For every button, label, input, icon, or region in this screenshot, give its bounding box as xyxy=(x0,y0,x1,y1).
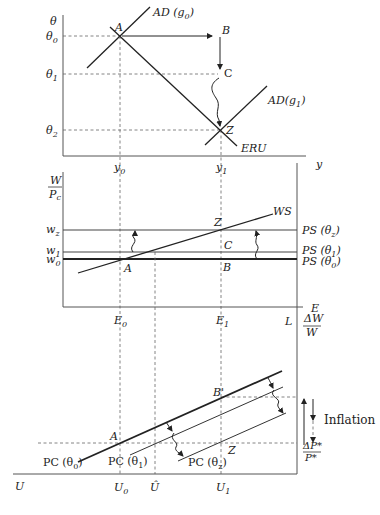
eru-curve xyxy=(110,27,237,146)
wavy-arrow-c-to-z xyxy=(212,78,220,126)
shift-arrow-right-1 xyxy=(268,378,273,388)
labour-force-label: L xyxy=(284,315,292,328)
panel-top-ad-eru: θ y θ0 θ1 θ2 y0 y1 AD (g0) ERU AD(g1) A … xyxy=(46,6,323,474)
wavy-arrow-right-up xyxy=(255,231,258,259)
real-wage-num: W xyxy=(50,174,63,187)
point-b-top: B xyxy=(221,24,230,37)
pc-theta-z-label: PC (θz) xyxy=(188,456,227,471)
pc-theta-1-label: PC (θ1) xyxy=(108,455,148,470)
diagram-canvas: θ y θ0 θ1 θ2 y0 y1 AD (g0) ERU AD(g1) A … xyxy=(0,0,380,515)
point-z-middle: Z xyxy=(213,216,222,229)
point-c-top: C xyxy=(224,67,232,80)
shift-arrow-left-1 xyxy=(166,422,172,431)
wz-label: wz xyxy=(46,223,60,238)
pc-theta-1-curve xyxy=(130,387,283,455)
ps-theta-z-label: PS (θz) xyxy=(301,224,340,239)
inflation-label: Inflation xyxy=(324,413,376,427)
point-a-top: A xyxy=(114,21,123,34)
pc-theta-0-label: PC (θ0) xyxy=(43,456,83,471)
pc-theta-0-curve xyxy=(78,371,282,462)
e1-label: E1 xyxy=(215,314,229,329)
point-z-top: Z xyxy=(225,124,234,137)
u1-label: U1 xyxy=(216,481,230,496)
price-inflation-num: ΔP* xyxy=(302,440,322,451)
wavy-arrow-left-up xyxy=(132,231,135,252)
theta2-label: θ2 xyxy=(46,124,58,139)
point-c-middle: C xyxy=(224,239,233,252)
y0-label: y0 xyxy=(113,161,125,176)
ws-curve xyxy=(78,214,273,273)
wage-inflation-den: W xyxy=(306,326,319,339)
wavy-shift-arrow-left-2 xyxy=(172,433,183,456)
panel-bottom-phillips: ΔW W ΔP* P* U U0 Û U1 PC (θ0) PC (θ1) PC… xyxy=(13,312,376,496)
point-a-middle: A xyxy=(123,262,132,275)
u-axis-label: U xyxy=(15,480,25,493)
eru-label: ERU xyxy=(240,142,267,155)
point-a-bottom: A xyxy=(109,430,118,443)
ad-g0-label: AD (g0) xyxy=(152,6,194,21)
point-b-middle: B xyxy=(222,261,231,274)
theta1-label: θ1 xyxy=(46,68,58,83)
point-b-prime-bottom: B' xyxy=(212,386,224,399)
e0-label: E0 xyxy=(113,314,127,329)
real-wage-den: Pc xyxy=(48,188,61,202)
theta-axis-label: θ xyxy=(50,15,57,28)
wavy-shift-arrow-right-2 xyxy=(272,390,283,413)
point-z-bottom: Z xyxy=(227,444,236,457)
ad-g1-label: AD(g1) xyxy=(267,94,306,109)
wage-inflation-num: ΔW xyxy=(303,312,325,325)
u-hat-label: Û xyxy=(150,480,160,494)
price-inflation-den: P* xyxy=(304,452,317,463)
y-axis-label: y xyxy=(315,158,323,171)
ad-g0-curve xyxy=(87,7,150,68)
theta0-label: θ0 xyxy=(46,30,58,45)
ws-label: WS xyxy=(273,205,292,218)
u0-label: U0 xyxy=(114,481,128,496)
